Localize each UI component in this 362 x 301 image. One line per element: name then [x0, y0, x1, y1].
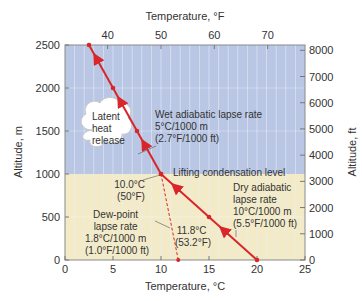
- x-tick-label: 10: [155, 263, 167, 275]
- x-top-tick-label: 50: [155, 29, 167, 41]
- x-tick-label: 0: [62, 263, 68, 275]
- dry-rate-label: Dry adiabatic lapse rate 10°C/1000 m (5.…: [233, 182, 297, 229]
- y-right-tick-label: 2000: [309, 202, 333, 214]
- y-right-tick-label: 4000: [309, 149, 333, 161]
- x-tick-label: 5: [110, 263, 116, 275]
- y-tick-label: 2500: [36, 39, 60, 51]
- lcl-temp-label: 10.0°C (50°F): [114, 179, 147, 202]
- surface-dew-label: 11.8°C (53.2°F): [175, 225, 211, 248]
- x-top-tick-label: 40: [102, 29, 114, 41]
- y-axis-meters: 05001000150020002500: [36, 39, 69, 266]
- y-right-tick-label: 6000: [309, 97, 333, 109]
- x-tick-label: 20: [251, 263, 263, 275]
- y-tick-label: 1000: [36, 168, 60, 180]
- x-tick-label: 15: [203, 263, 215, 275]
- y-tick-label: 2000: [36, 82, 60, 94]
- y-right-tick-label: 8000: [309, 44, 333, 56]
- y-axis-right-title: Altitude, ft: [346, 128, 358, 177]
- y-right-tick-label: 3000: [309, 175, 333, 187]
- y-tick-label: 500: [42, 211, 60, 223]
- lcl-label: Lifting condensation level: [173, 167, 285, 178]
- lapse-rate-chart: 0510152025 40506070 05001000150020002500…: [0, 0, 362, 301]
- y-right-tick-label: 1000: [309, 228, 333, 240]
- x-axis-title: Temperature, °C: [145, 280, 225, 292]
- x-top-tick-label: 60: [208, 29, 220, 41]
- y-right-tick-label: 5000: [309, 123, 333, 135]
- y-right-tick-label: 7000: [309, 71, 333, 83]
- y-right-tick-label: 0: [309, 254, 315, 266]
- x-top-tick-label: 70: [262, 29, 274, 41]
- y-tick-label: 0: [54, 254, 60, 266]
- y-axis-title: Altitude, m: [12, 126, 24, 178]
- y-tick-label: 1500: [36, 125, 60, 137]
- x-axis-top-title: Temperature, °F: [146, 10, 225, 22]
- dew-rate-label: Dew-point lapse rate 1.8°C/1000 m (1.0°F…: [85, 209, 149, 256]
